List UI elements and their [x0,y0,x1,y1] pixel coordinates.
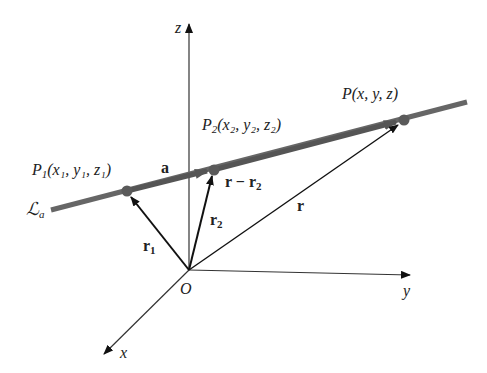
vector-r1 [131,197,189,270]
x-axis-label: x [120,345,127,361]
z-axis-label: z [175,20,181,36]
vector-a-label: a [161,160,169,176]
vector-line-diagram: z y x O ℒa P1(x₁, y₁, z₁) P2(x₂, y₂, z₂)… [0,0,487,373]
x-axis [104,270,189,354]
y-axis-label: y [403,283,410,299]
point-p2 [209,165,220,176]
origin-label: O [180,281,192,297]
vector-r-minus-r2-label: r − r2 [225,174,262,192]
point-p [399,115,410,126]
vector-r2-label: r2 [210,212,223,230]
point-p1 [122,186,133,197]
point-p-label: P(x, y, z) [342,86,398,102]
point-p2-label: P2(x₂, y₂, z₂) [202,117,281,135]
point-p1-label: P1(x₁, y₁, z₁) [32,162,111,180]
line-label: ℒa [26,200,45,220]
y-axis [189,270,410,275]
vector-r-label: r [297,198,304,214]
vector-r1-label: r1 [143,238,156,256]
